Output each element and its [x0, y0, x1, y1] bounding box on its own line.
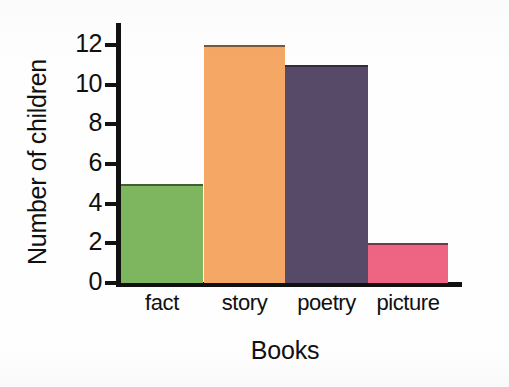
y-tick-label-wrap: 12 [44, 31, 102, 57]
y-tick-label: 6 [58, 150, 102, 175]
category-label-fact: fact [121, 290, 203, 316]
bar-top-edge [204, 45, 285, 47]
y-tick-mark [105, 202, 118, 206]
bar-fact [121, 184, 203, 283]
category-label-picture: picture [368, 290, 448, 316]
y-tick-label-wrap: 0 [44, 269, 102, 295]
bar-story [204, 45, 285, 283]
y-tick-mark [105, 43, 118, 47]
y-tick-label: 0 [58, 269, 102, 294]
bar-chart: Number of children 024681012 factstorypo… [0, 0, 509, 387]
y-tick-label: 10 [58, 71, 102, 96]
y-tick-label-wrap: 2 [44, 229, 102, 255]
y-tick-mark [105, 162, 118, 166]
category-label-story: story [204, 290, 285, 316]
y-tick-label: 12 [58, 31, 102, 56]
bar-picture [368, 243, 448, 283]
y-tick-mark [105, 83, 118, 87]
y-tick-label-wrap: 10 [44, 71, 102, 97]
y-tick-mark [105, 122, 118, 126]
y-tick-label: 8 [58, 110, 102, 135]
y-tick-label: 2 [58, 229, 102, 254]
y-tick-mark [105, 281, 118, 285]
bar-top-edge [285, 65, 368, 67]
plot-area [121, 23, 448, 283]
y-tick-label: 4 [58, 190, 102, 215]
y-tick-label-wrap: 4 [44, 190, 102, 216]
bar-top-edge [368, 243, 448, 245]
y-tick-label-wrap: 6 [44, 150, 102, 176]
y-tick-mark [105, 241, 118, 245]
category-label-poetry: poetry [285, 290, 368, 316]
x-axis-title: Books [120, 336, 450, 365]
bar-top-edge [121, 184, 203, 186]
y-tick-label-wrap: 8 [44, 110, 102, 136]
bar-poetry [285, 65, 368, 283]
